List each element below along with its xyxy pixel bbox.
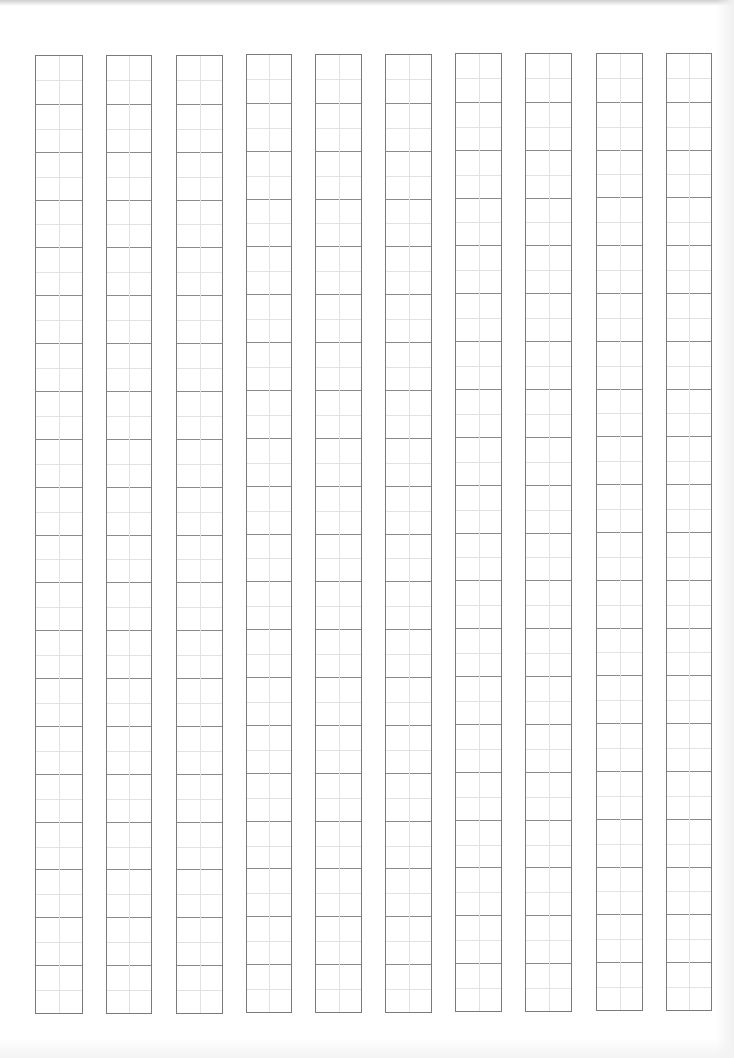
vertical-guide-line bbox=[59, 56, 60, 1013]
vertical-guide-line bbox=[620, 54, 621, 1010]
writing-column bbox=[455, 53, 502, 1012]
vertical-guide-line bbox=[339, 55, 340, 1012]
writing-column bbox=[385, 54, 432, 1013]
writing-column bbox=[176, 55, 223, 1014]
vertical-guide-line bbox=[409, 55, 410, 1012]
writing-column bbox=[35, 55, 83, 1014]
practice-sheet bbox=[0, 0, 734, 1058]
writing-column bbox=[666, 53, 712, 1011]
vertical-guide-line bbox=[269, 55, 270, 1012]
vertical-guide-line bbox=[129, 56, 130, 1013]
writing-column bbox=[315, 54, 362, 1013]
vertical-guide-line bbox=[689, 54, 690, 1010]
writing-column bbox=[106, 55, 152, 1014]
vertical-guide-line bbox=[200, 56, 201, 1013]
vertical-guide-line bbox=[549, 54, 550, 1011]
writing-column bbox=[596, 53, 643, 1011]
vertical-guide-line bbox=[479, 54, 480, 1011]
writing-column bbox=[246, 54, 292, 1013]
writing-column bbox=[525, 53, 572, 1012]
